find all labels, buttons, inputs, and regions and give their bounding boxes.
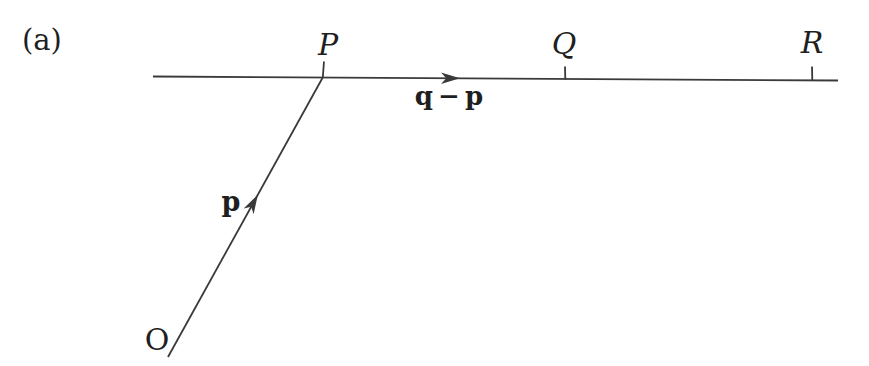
point-Q-label: Q (552, 26, 577, 61)
panel-label: (a) (22, 23, 62, 57)
vector-q-minus-p-label: q − p (415, 81, 484, 111)
origin-O-label: O (145, 322, 170, 357)
point-R-label: R (800, 25, 824, 60)
vector-OP-line (168, 77, 323, 357)
vector-p-arrowhead (244, 192, 263, 214)
vector-diagram-panel: (a) P Q R O p q − p (0, 0, 869, 366)
vector-p-label: p (222, 186, 241, 217)
vector-diagram-canvas: (a) P Q R O p q − p (0, 0, 869, 366)
point-P-tick (323, 62, 324, 78)
number-line (153, 77, 838, 81)
point-P-label: P (317, 27, 339, 62)
